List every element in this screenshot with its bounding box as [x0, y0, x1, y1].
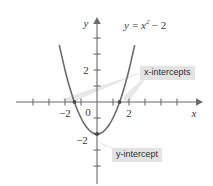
y-axis-arrowhead [93, 17, 101, 24]
y-axis-label: y [83, 17, 89, 29]
y-intercept-callout: y-intercept [112, 148, 162, 162]
x-intercepts-callout: x-intercepts [140, 66, 195, 80]
equation-equals: = [132, 19, 138, 31]
x-intercept-right-dot [118, 100, 122, 104]
y-axis [93, 17, 101, 184]
y-intercept-dot [95, 132, 99, 136]
y-tick-label-pos2: 2 [83, 64, 89, 76]
x-tick-label-neg2: −2 [59, 107, 71, 119]
equation-exponent: 2 [146, 18, 150, 26]
origin-label: 0 [85, 106, 91, 118]
equation-label: y=x2−2 [124, 18, 166, 31]
x-axis-arrowhead [196, 98, 203, 106]
equation-lhs: y [124, 19, 129, 31]
x-axis-label: x [191, 107, 197, 119]
x-axis [16, 98, 203, 106]
y-tick-label-neg2: −2 [76, 134, 88, 146]
equation-constant: 2 [161, 19, 167, 31]
x-intercept-left-dot [73, 100, 77, 104]
graph-figure: x y −2 2 0 2 −2 y=x2−2 x-intercepts y-in… [0, 0, 213, 186]
plot-area: x y −2 2 0 2 −2 [0, 0, 213, 186]
x-tick-label-pos2: 2 [126, 107, 132, 119]
equation-minus: − [152, 19, 158, 31]
